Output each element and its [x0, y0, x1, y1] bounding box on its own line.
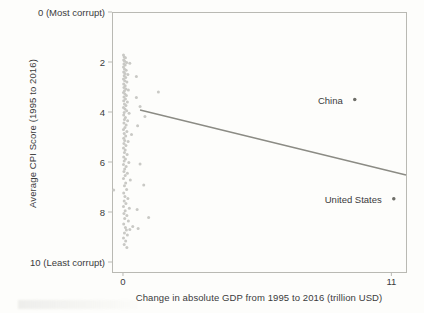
scatter-point	[123, 232, 126, 235]
scatter-point	[123, 118, 126, 121]
scatter-point	[136, 124, 139, 127]
scatter-point	[129, 179, 132, 182]
scatter-point	[128, 228, 131, 231]
scatter-point	[123, 217, 126, 220]
scatter-point	[122, 170, 125, 173]
scan-artifact	[18, 300, 138, 309]
scatter-point	[127, 89, 130, 92]
scatter-point	[124, 202, 127, 205]
scatter-point	[125, 246, 128, 249]
scatter-point	[124, 240, 127, 243]
annotated-point-marker	[392, 197, 395, 200]
scatter-point	[128, 62, 131, 65]
scatter-point	[147, 216, 150, 219]
scatter-point	[139, 105, 142, 108]
scatter-point	[122, 237, 125, 240]
scatter-point	[123, 132, 126, 135]
scatter-point	[124, 174, 127, 177]
scatter-point	[139, 163, 142, 166]
scatter-point	[157, 91, 160, 94]
scatter-point	[123, 139, 126, 142]
scatter-point	[125, 214, 128, 217]
scatter-point	[122, 192, 125, 195]
scatter-point	[124, 209, 127, 212]
scatter-point	[124, 144, 127, 147]
scatter-point	[127, 220, 130, 223]
scatter-point	[126, 234, 129, 237]
x-tick-label-0: 0	[120, 276, 125, 287]
scatter-point	[128, 207, 131, 210]
scatter-point	[125, 229, 128, 232]
scatter-point	[123, 111, 126, 114]
scatter-points	[112, 54, 395, 250]
y-tick-label-4: 8	[100, 207, 105, 218]
trend-line	[140, 110, 406, 175]
y-tick-label-5: 10 (Least corrupt)	[30, 257, 105, 268]
chart-figure: Average CPI Score (1995 to 2016) Change …	[0, 0, 424, 313]
scatter-point	[126, 153, 129, 156]
y-tick-label-1: 2	[100, 57, 105, 68]
scatter-point	[123, 160, 126, 163]
scatter-point	[122, 177, 125, 180]
scatter-point	[126, 119, 129, 122]
scatter-point	[123, 195, 126, 198]
scatter-point	[130, 133, 133, 136]
y-axis-title: Average CPI Score (1995 to 2016)	[27, 34, 38, 234]
scatter-point	[123, 200, 126, 203]
scatter-point	[123, 151, 126, 154]
scatter-point	[123, 184, 126, 187]
x-axis-title: Change in absolute GDP from 1995 to 2016…	[112, 292, 406, 303]
scatter-point	[112, 189, 115, 192]
scatter-point	[125, 81, 128, 84]
scatter-point	[127, 140, 130, 143]
scatter-point	[122, 212, 125, 215]
scatter-point	[126, 197, 129, 200]
annotation-label-1: United States	[325, 193, 382, 204]
scatter-point	[125, 188, 128, 191]
scatter-point	[124, 104, 127, 107]
scatter-point	[142, 184, 145, 187]
scatter-point	[135, 75, 138, 78]
scatter-point	[125, 61, 128, 64]
scatter-point	[125, 69, 128, 72]
scatter-point	[126, 73, 129, 76]
scatter-point	[126, 172, 129, 175]
scatter-point	[137, 227, 140, 230]
annotation-label-0: China	[318, 94, 343, 105]
scatter-point	[122, 163, 125, 166]
scatter-point	[125, 109, 128, 112]
scatter-point	[135, 96, 138, 99]
scatter-point	[131, 225, 134, 228]
scatter-point	[123, 243, 126, 246]
scatter-point	[143, 115, 146, 118]
scatter-point	[128, 112, 131, 115]
scatter-point	[124, 182, 127, 185]
scatter-point	[122, 99, 125, 102]
y-axis-ticks	[108, 12, 112, 262]
scatter-point	[136, 208, 139, 211]
scatter-point	[125, 165, 128, 168]
scatter-point	[122, 128, 125, 131]
annotated-point-marker	[353, 98, 356, 101]
scatter-point	[122, 223, 125, 226]
y-tick-label-3: 6	[100, 157, 105, 168]
scatter-point	[122, 205, 125, 208]
scatter-point	[125, 130, 128, 133]
scatter-point	[127, 161, 130, 164]
x-tick-label-1: 11	[386, 276, 396, 287]
y-tick-label-0: 0 (Most corrupt)	[38, 7, 105, 18]
y-tick-label-2: 4	[100, 107, 105, 118]
scatter-point	[122, 114, 125, 117]
plot-frame	[113, 13, 407, 273]
scatter-point	[126, 101, 129, 104]
